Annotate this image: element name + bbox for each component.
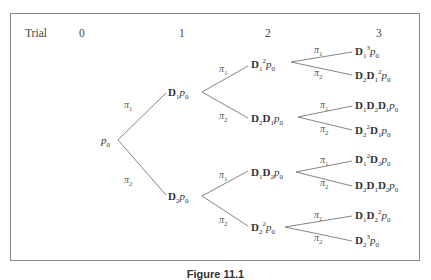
branch-pi1-root: π1 — [124, 100, 133, 110]
branch-pi2-l3-4: π2 — [314, 233, 323, 243]
branch-pi2-d1: π2 — [219, 111, 228, 121]
node-d1cube-p0: D13p0 — [355, 46, 379, 57]
trial-label: Trial — [25, 28, 47, 40]
figure-caption: Figure 11.1 — [0, 268, 431, 280]
branch-pi2-d2: π2 — [219, 215, 228, 225]
node-d2d1sq-p0: D2D12p0 — [355, 70, 390, 81]
node-d2d1d2-p0: D2D1D2p0 — [355, 180, 398, 191]
node-d1sqd2-p0: D12D2p0 — [355, 154, 390, 165]
branch-pi2-root: π2 — [124, 175, 133, 185]
branch-pi2-l3-3: π2 — [320, 178, 329, 188]
branch-pi2-l3-2: π2 — [320, 124, 329, 134]
node-d2d1-p0: D2D1p0 — [251, 113, 283, 124]
root-node-p0: p0 — [101, 135, 110, 146]
trial-1: 1 — [179, 28, 185, 40]
branch-pi2-l3-1: π2 — [314, 68, 323, 78]
node-d2-p0: D2p0 — [168, 191, 188, 202]
branch-pi1-l3-2: π1 — [320, 100, 329, 110]
node-d1sq-p0: D12p0 — [251, 59, 275, 70]
node-d1d2-p0: D1D2p0 — [251, 167, 283, 178]
trial-0: 0 — [79, 28, 85, 40]
node-d2sq-p0: D22p0 — [251, 222, 275, 233]
trial-2: 2 — [265, 28, 271, 40]
branch-pi1-l3-4: π1 — [314, 210, 323, 220]
branch-pi1-l3-1: π1 — [314, 45, 323, 55]
trial-3: 3 — [376, 28, 382, 40]
branch-pi1-l3-3: π1 — [320, 155, 329, 165]
branch-pi1-d2: π1 — [219, 170, 228, 180]
node-d2cube-p0: D23p0 — [355, 235, 379, 246]
node-d2sqd1-p0: D22D1p0 — [355, 125, 390, 136]
node-d1d2d1-p0: D1D2D1p0 — [355, 100, 398, 111]
node-d1d2sq-p0: D1D22p0 — [355, 210, 390, 221]
branch-pi1-d1: π1 — [219, 64, 228, 74]
node-d1-p0: D1p0 — [168, 87, 188, 98]
